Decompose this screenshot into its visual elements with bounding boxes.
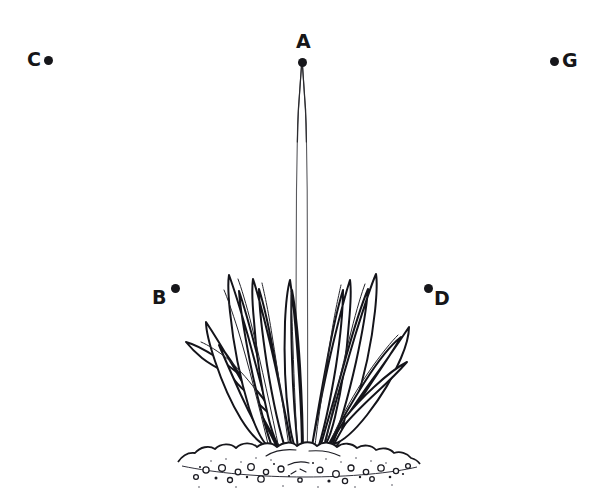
marker-layer: A C G B D	[0, 0, 605, 493]
marker-label-g: G	[562, 51, 578, 70]
marker-dot-b[interactable]	[171, 284, 180, 293]
marker-label-c: C	[27, 50, 41, 69]
marker-label-a: A	[296, 32, 311, 51]
marker-dot-c[interactable]	[44, 56, 53, 65]
marker-label-b: B	[152, 288, 166, 307]
marker-dot-d[interactable]	[424, 284, 433, 293]
figure-canvas: A C G B D	[0, 0, 605, 493]
marker-dot-a[interactable]	[298, 58, 307, 67]
marker-label-d: D	[434, 289, 450, 308]
marker-dot-g[interactable]	[550, 57, 559, 66]
